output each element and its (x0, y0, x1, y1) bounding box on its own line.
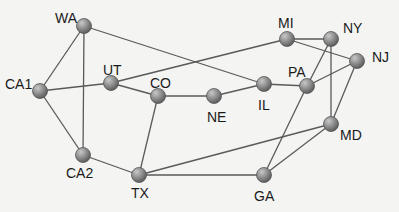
node-label-mi: MI (278, 16, 294, 30)
node-label-nj: NJ (372, 50, 389, 64)
network-diagram: WACA1UTCONEILPAMINYNJMDCA2TXGA (0, 0, 399, 212)
node-tx (132, 168, 147, 183)
edge-pa-nj (307, 61, 357, 86)
edge-md-tx (139, 124, 331, 175)
edge-ut-mi (111, 39, 287, 83)
edge-pa-ga (264, 86, 307, 175)
node-pa (300, 79, 315, 94)
node-nj (350, 54, 365, 69)
node-label-md: MD (340, 128, 362, 142)
edge-co-tx (139, 96, 158, 175)
edge-ca1-ut (40, 83, 111, 91)
graph-canvas (0, 0, 399, 212)
node-label-ca1: CA1 (5, 77, 32, 91)
edge-nj-md (331, 61, 357, 124)
node-ny (324, 32, 339, 47)
edge-wa-ca2 (83, 26, 84, 155)
node-label-ca2: CA2 (66, 166, 93, 180)
node-label-wa: WA (55, 11, 77, 25)
node-label-ny: NY (343, 21, 362, 35)
node-wa (77, 19, 92, 34)
node-label-il: IL (258, 98, 270, 112)
node-il (257, 77, 272, 92)
node-ca1 (33, 84, 48, 99)
node-label-pa: PA (288, 65, 306, 79)
node-label-tx: TX (131, 186, 149, 200)
nodes-layer (33, 19, 365, 183)
node-label-ut: UT (103, 63, 122, 77)
node-ne (207, 89, 222, 104)
node-ga (257, 168, 272, 183)
edge-wa-ca1 (40, 26, 84, 91)
node-label-ga: GA (254, 189, 274, 203)
edge-ca1-ca2 (40, 91, 83, 155)
node-mi (280, 32, 295, 47)
edge-md-ga (264, 124, 331, 175)
node-label-ne: NE (207, 110, 226, 124)
node-ca2 (76, 148, 91, 163)
node-label-co: CO (150, 76, 171, 90)
node-md (324, 117, 339, 132)
